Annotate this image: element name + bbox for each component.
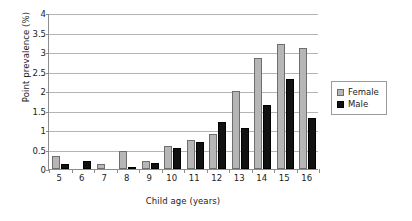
bar-group [184,14,207,169]
x-axis-tick-label: 11 [189,174,200,183]
bar-female-age-15 [277,44,285,169]
bar-male-age-16 [308,118,316,169]
x-axis-tick-label: 8 [124,174,129,183]
x-axis-tick-label: 9 [147,174,152,183]
bar-chart: Point prevalence (%) 00.511.522.533.54 5… [0,0,412,221]
bar-male-age-11 [196,142,204,169]
x-axis-tick-label: 16 [301,174,312,183]
bar-male-age-13 [241,128,249,169]
y-axis-tick-label: 1 [12,127,46,136]
x-axis-tickmark [72,169,73,173]
bar-male-age-15 [286,79,294,169]
y-axis-tick-label: 2.5 [12,68,46,77]
x-axis-tick-label: 15 [279,174,290,183]
legend-item-male: Male [337,98,379,110]
x-axis-tickmark [184,169,185,173]
x-axis-tick-label: 10 [166,174,177,183]
y-axis-tick-label: 1.5 [12,107,46,116]
x-axis-tickmark [274,169,275,173]
plot-area [48,14,318,170]
y-axis-tick-label: 3 [12,49,46,58]
legend-swatch-female-icon [337,89,344,96]
bar-group [94,14,117,169]
legend-label-male: Male [348,100,368,109]
x-axis-tick-label: 14 [256,174,267,183]
bar-group [49,14,72,169]
y-axis-tick-label: 0 [12,166,46,175]
bar-group [229,14,252,169]
bar-group [139,14,162,169]
bar-male-age-14 [263,105,271,169]
legend-swatch-male-icon [337,101,344,108]
bar-female-age-14 [254,58,262,169]
x-axis-tickmark [252,169,253,173]
legend-item-female: Female [337,86,379,98]
x-axis-tickmark [94,169,95,173]
x-axis-tick-label: 13 [234,174,245,183]
x-axis-tick-label: 12 [211,174,222,183]
bar-female-age-16 [299,48,307,169]
bar-female-age-13 [232,91,240,169]
bar-male-age-10 [173,148,181,169]
x-axis-tickmark [297,169,298,173]
x-axis-tickmark [162,169,163,173]
y-axis-tick-labels: 00.511.522.533.54 [10,0,46,221]
bar-male-age-6 [83,161,91,169]
x-axis-tick-label: 6 [79,174,84,183]
x-axis-tickmark [229,169,230,173]
bar-female-age-9 [142,161,150,169]
x-axis-tickmark [207,169,208,173]
y-axis-tick-label: 2 [12,88,46,97]
bar-group [162,14,185,169]
y-axis-tick-label: 3.5 [12,29,46,38]
bar-male-age-9 [151,163,159,169]
chart-legend: Female Male [331,81,387,115]
bar-male-age-12 [218,122,226,169]
x-axis-tickmark [319,169,320,173]
x-axis-title: Child age (years) [48,196,318,206]
bar-female-age-12 [209,134,217,169]
x-axis-tick-label: 5 [57,174,62,183]
bar-female-age-10 [164,146,172,169]
legend-label-female: Female [348,88,379,97]
bar-group [117,14,140,169]
y-axis-tick-label: 0.5 [12,146,46,155]
bar-male-age-5 [61,164,69,169]
bar-female-age-8 [119,151,127,169]
x-axis-tick-label: 7 [102,174,107,183]
bar-group [297,14,320,169]
x-axis-tickmark [117,169,118,173]
bar-group [274,14,297,169]
bar-group [207,14,230,169]
x-axis-tickmark [139,169,140,173]
bar-male-age-8 [128,167,136,169]
y-axis-tick-label: 4 [12,10,46,19]
bar-female-age-5 [52,156,60,169]
x-axis-tickmark [49,169,50,173]
bar-female-age-11 [187,140,195,169]
x-axis-tick-labels: 5678910111213141516 [48,174,318,190]
bar-group [252,14,275,169]
bar-female-age-7 [97,164,105,169]
bar-group [72,14,95,169]
